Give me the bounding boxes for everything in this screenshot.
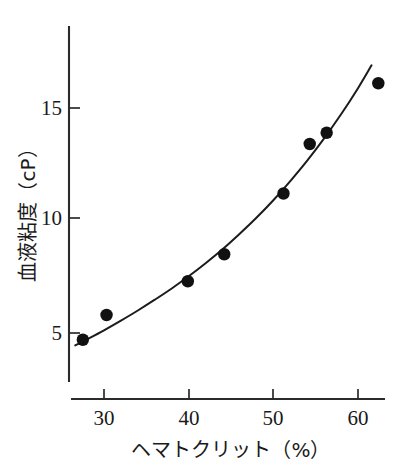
data-point	[372, 77, 384, 89]
blood-viscosity-vs-hematocrit-chart: 15 10 5 30 40 50 60 ヘマトクリット（%） 血液粘度（cP）	[0, 0, 401, 466]
x-tick-label-30: 30	[94, 406, 115, 430]
chart-background	[0, 0, 401, 466]
data-point	[218, 248, 230, 260]
data-point	[304, 138, 316, 150]
x-tick-label-60: 60	[348, 406, 369, 430]
x-tick-label-40: 40	[179, 406, 200, 430]
x-tick-label-50: 50	[263, 406, 284, 430]
x-axis-title: ヘマトクリット（%）	[131, 438, 330, 462]
y-tick-label-15: 15	[41, 96, 62, 120]
data-point	[320, 127, 332, 139]
data-point	[277, 187, 289, 199]
y-tick-label-5: 5	[52, 321, 63, 345]
data-point	[100, 309, 112, 321]
data-point	[182, 275, 194, 287]
y-axis-title: 血液粘度（cP）	[16, 138, 40, 281]
y-tick-label-10: 10	[41, 206, 62, 230]
data-point	[77, 334, 89, 346]
